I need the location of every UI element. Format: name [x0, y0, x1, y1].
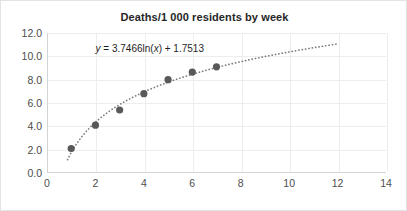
y-axis-tick-label: 8.0: [1, 74, 42, 86]
gridline-horizontal: [48, 56, 386, 57]
gridline-horizontal: [48, 150, 386, 151]
gridline-vertical: [290, 33, 291, 172]
chart-title: Deaths/1 000 residents by week: [1, 11, 407, 23]
y-axis-tick-label: 4.0: [1, 120, 42, 132]
x-axis-tick-label: 14: [366, 177, 406, 189]
x-axis-tick-label: 8: [221, 177, 261, 189]
x-axis-tick-label: 6: [172, 177, 212, 189]
trendline-equation-label: y = 3.7466ln(x) + 1.7513: [96, 43, 204, 54]
x-axis-tick-label: 2: [75, 177, 115, 189]
y-axis-tick-label: 6.0: [1, 97, 42, 109]
x-axis-tick-label: 0: [27, 177, 67, 189]
gridline-horizontal: [48, 33, 386, 34]
chart-card: Deaths/1 000 residents by week 0.02.04.0…: [0, 0, 407, 211]
y-axis-tick-label: 10.0: [1, 50, 42, 62]
gridline-horizontal: [48, 126, 386, 127]
x-axis-tick-label: 4: [124, 177, 164, 189]
x-axis-tick-label: 10: [269, 177, 309, 189]
gridline-horizontal: [48, 103, 386, 104]
equation-suffix: ) + 1.7513: [159, 43, 204, 54]
y-axis-tick-label: 12.0: [1, 27, 42, 39]
gridline-horizontal: [48, 80, 386, 81]
gridline-vertical: [387, 33, 388, 172]
equation-body: = 3.7466ln(: [101, 43, 154, 54]
gridline-vertical: [242, 33, 243, 172]
x-axis-tick-label: 12: [318, 177, 358, 189]
gridline-vertical: [339, 33, 340, 172]
y-axis-tick-label: 2.0: [1, 144, 42, 156]
